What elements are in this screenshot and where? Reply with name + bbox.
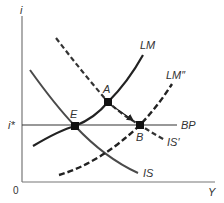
x-axis-label: Y xyxy=(208,186,216,198)
point-e-label: E xyxy=(70,108,78,120)
point-b-marker xyxy=(136,121,144,129)
point-a-label: A xyxy=(102,83,110,95)
lm-curve xyxy=(33,55,143,146)
is-prime-label: IS′ xyxy=(167,136,180,148)
shift-arrow xyxy=(114,107,131,119)
y-axis-label: i xyxy=(20,4,23,16)
bp-label: BP xyxy=(181,119,196,131)
point-b-label: B xyxy=(136,131,143,143)
is-lm-bp-diagram: i Y 0 i* E A B IS LM IS′ LM″ BP xyxy=(0,0,224,203)
point-a-marker xyxy=(104,98,112,106)
lm-label: LM xyxy=(140,39,156,51)
point-e-marker xyxy=(71,122,79,130)
origin-label: 0 xyxy=(13,185,19,196)
is-label: IS xyxy=(143,167,154,179)
i-star-label: i* xyxy=(8,119,15,131)
lm-double-prime-label: LM″ xyxy=(166,69,186,81)
